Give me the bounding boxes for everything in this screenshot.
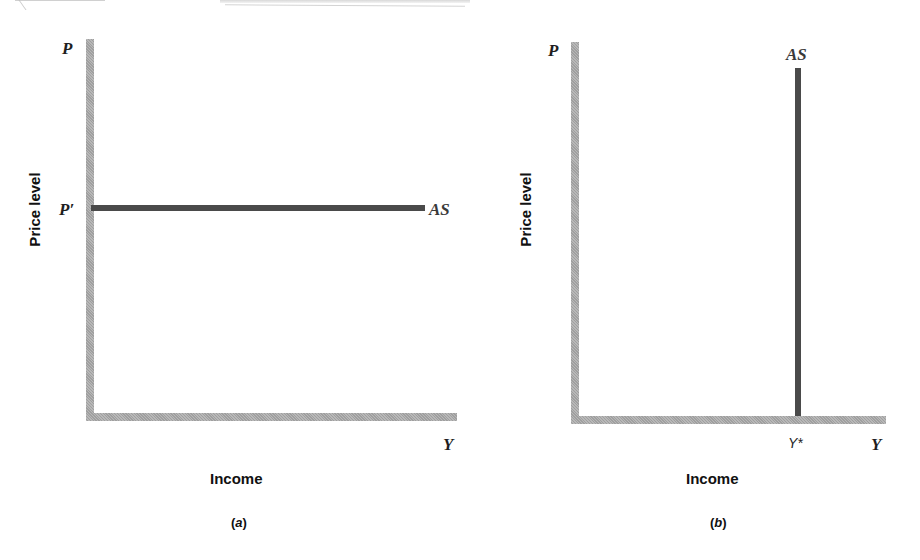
panel-b-as-label: AS [786,46,807,63]
panel-b-y-axis-symbol: P [548,42,558,59]
panel-b-x-axis-title: Income [686,471,739,486]
panel-b-y-axis-title: Price level [518,168,533,252]
panel-b-income-marker: Y* [788,436,803,450]
panel-b-caption: (b) [710,516,727,529]
panel-b-caption-close: ) [722,515,726,530]
panel-b-vertical-as: P AS Y* Y Price level Income (b) [0,0,920,560]
panel-b-y-axis [571,42,579,424]
panel-b-x-axis-symbol: Y [871,436,881,453]
panel-b-as-curve-vertical [795,68,801,416]
panel-b-x-axis [571,416,886,424]
